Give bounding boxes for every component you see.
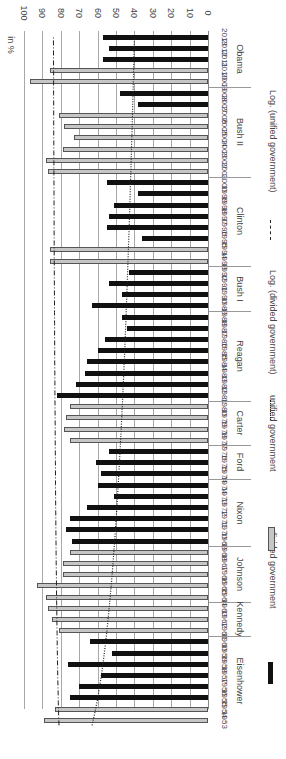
group-separator [209, 479, 251, 480]
president-label: Kennedy [235, 589, 245, 649]
legend-label: Log. (divided government) [268, 270, 278, 375]
president-label: Nixon [235, 483, 245, 543]
president-label: Bush I [235, 259, 245, 319]
group-separator [209, 636, 251, 637]
legend-swatch-dot [270, 400, 271, 420]
legend-swatch-unified [268, 527, 275, 551]
president-label: Bush II [235, 102, 245, 162]
legend-swatch-dashdot [270, 220, 271, 240]
legend-swatch-divided [268, 662, 273, 684]
year-label: 1953 [217, 708, 231, 732]
trendline-divided [92, 37, 134, 725]
president-label: Eisenhower [235, 651, 245, 711]
rotated-bar-chart: in % 0102030405060708090100 201320122011… [0, 0, 286, 759]
legend-label: Log. (unified government) [268, 90, 278, 193]
president-label: Reagan [235, 326, 245, 386]
trendline-unified [53, 37, 59, 725]
president-label: Clinton [235, 191, 245, 251]
group-separator [209, 311, 251, 312]
group-separator [209, 177, 251, 178]
group-separator [209, 87, 251, 88]
president-label: Obama [235, 29, 245, 89]
